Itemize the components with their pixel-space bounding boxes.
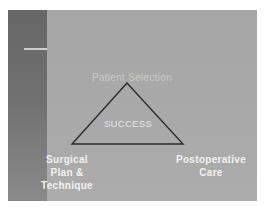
vertex-label-top: Patient Selection — [78, 72, 186, 84]
vertex-label-bottom-left: Surgical Plan & Technique — [36, 153, 98, 192]
vertex-label-line: Postoperative — [170, 153, 252, 166]
vertex-label-line: Plan & — [36, 166, 98, 179]
vertex-label-bottom-right: Postoperative Care — [170, 153, 252, 179]
vertex-label-line: Surgical — [36, 153, 98, 166]
vertex-label-line: Care — [170, 166, 252, 179]
center-label: SUCCESS — [98, 118, 158, 130]
vertex-label-line: Technique — [36, 179, 98, 192]
slide: Patient Selection SUCCESS Surgical Plan … — [8, 10, 257, 201]
